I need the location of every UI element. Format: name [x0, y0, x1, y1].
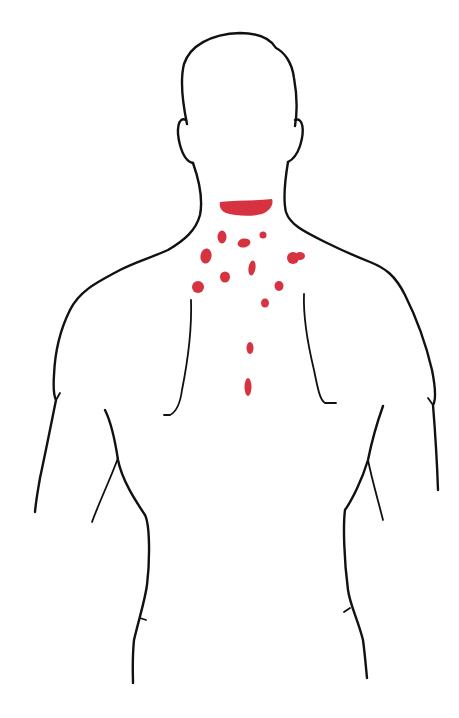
left-forearm-line: [92, 458, 118, 522]
left-ear: [178, 119, 193, 163]
trigger-point-spots: [192, 231, 305, 397]
left-waist-notch: [140, 618, 146, 620]
right-neck-shoulder-arm: [285, 162, 438, 490]
pain-spot-s8: [192, 281, 204, 293]
left-inner-arm-line: [105, 410, 149, 683]
pain-spot-s2: [237, 237, 251, 248]
right-scapula-line: [304, 294, 336, 403]
pain-spot-s10: [261, 299, 269, 308]
right-waist-notch: [344, 608, 350, 612]
left-scapula-line: [164, 300, 191, 415]
right-forearm-line: [368, 460, 383, 520]
head-outline: [182, 33, 297, 126]
right-inner-arm-line: [344, 406, 383, 678]
pain-spots: [192, 199, 305, 396]
right-armpit-notch: [428, 398, 433, 405]
back-body-diagram: [0, 0, 459, 718]
pain-spot-s6: [247, 260, 256, 276]
body-outline: [35, 33, 438, 683]
pain-spot-s4: [199, 248, 212, 265]
pain-spot-s7: [220, 272, 230, 283]
pain-spot-s12: [245, 378, 252, 396]
pain-spot-s11: [247, 342, 254, 354]
pain-spot-s5b: [295, 252, 305, 260]
pain-spot-s9: [275, 281, 284, 291]
pain-spot-s1: [218, 231, 227, 244]
neck-band-spot: [220, 199, 273, 216]
pain-spot-s3: [260, 232, 267, 239]
left-armpit-notch: [56, 393, 60, 400]
